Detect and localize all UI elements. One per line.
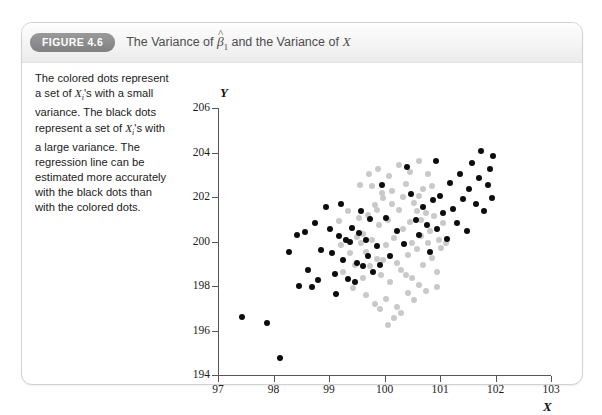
data-point-gray	[391, 235, 397, 241]
data-point-gray	[369, 183, 375, 189]
data-point-gray	[411, 200, 417, 206]
caption-line-2-b: 's with a small	[84, 87, 153, 99]
x-tick-label: 99	[314, 383, 344, 395]
data-point-gray	[357, 182, 363, 188]
data-point-black	[420, 204, 426, 210]
data-point-gray	[440, 220, 446, 226]
data-point-black	[485, 182, 491, 188]
x-tick-mark	[385, 376, 386, 382]
data-point-black	[464, 228, 470, 234]
x-tick-mark	[218, 376, 219, 382]
data-point-gray	[409, 240, 415, 246]
data-point-gray	[407, 219, 413, 225]
y-tick-mark	[212, 286, 218, 287]
data-point-gray	[398, 310, 404, 316]
data-point-black	[481, 208, 487, 214]
caption-line-4-xvar: X	[125, 122, 132, 134]
data-point-black	[413, 217, 419, 223]
data-point-black	[352, 279, 358, 285]
data-point-black	[433, 158, 439, 164]
data-point-gray	[403, 181, 409, 187]
data-point-black	[487, 166, 493, 172]
data-point-gray	[350, 285, 356, 291]
data-point-black	[358, 208, 364, 214]
y-tick-mark	[212, 108, 218, 109]
data-point-gray	[360, 275, 366, 281]
caption-line-9: with the colored dots.	[35, 201, 141, 213]
data-point-gray	[429, 255, 435, 261]
data-point-gray	[372, 301, 378, 307]
data-point-gray	[365, 212, 371, 218]
data-point-gray	[418, 233, 424, 239]
data-point-gray	[374, 256, 380, 262]
data-point-gray	[431, 213, 437, 219]
x-tick-label: 97	[203, 383, 233, 395]
data-point-black	[302, 229, 308, 235]
caption-line-2-a: a set of	[35, 87, 75, 99]
data-point-black	[360, 263, 366, 269]
data-point-black	[329, 250, 335, 256]
y-axis-line	[218, 108, 219, 375]
caption-line-7: estimated more accurately	[35, 171, 166, 183]
data-point-gray	[396, 207, 402, 213]
x-tick-mark	[274, 376, 275, 382]
data-point-black	[370, 269, 376, 275]
data-point-gray	[409, 275, 415, 281]
data-point-gray	[434, 269, 440, 275]
data-point-gray	[375, 166, 381, 172]
data-point-black	[277, 355, 283, 361]
data-point-black	[401, 241, 407, 247]
data-point-gray	[407, 169, 413, 175]
data-point-black	[354, 260, 360, 266]
caption-line-4-b: 's with	[134, 122, 165, 134]
data-point-gray	[374, 207, 380, 213]
data-point-gray	[377, 306, 383, 312]
data-point-black	[377, 262, 383, 268]
data-point-gray	[427, 228, 433, 234]
data-point-black	[404, 164, 410, 170]
data-point-gray	[389, 188, 395, 194]
caption-line-4-a: represent a set of	[35, 122, 125, 134]
figure-caption: The colored dots represent a set of Xi's…	[35, 71, 187, 215]
data-point-gray	[405, 290, 411, 296]
data-point-gray	[345, 208, 351, 214]
data-point-gray	[411, 297, 417, 303]
scatter-plot: Y X 194196198200202204206 97989910010110…	[196, 63, 576, 381]
data-point-gray	[338, 242, 344, 248]
data-point-black	[473, 201, 479, 207]
data-point-gray	[403, 272, 409, 278]
figure-card: FIGURE 4.6 The Variance of ^β1 and the V…	[21, 22, 583, 385]
data-point-gray	[416, 158, 422, 164]
y-tick-mark	[212, 153, 218, 154]
data-point-black	[365, 253, 371, 259]
data-point-black	[332, 271, 338, 277]
data-point-gray	[383, 242, 389, 248]
caption-line-6: regression line can be	[35, 156, 144, 168]
data-point-black	[309, 284, 315, 290]
data-point-gray	[425, 171, 431, 177]
data-point-gray	[376, 222, 382, 228]
data-point-gray	[400, 226, 406, 232]
data-point-gray	[387, 279, 393, 285]
data-point-gray	[416, 193, 422, 199]
data-point-gray	[405, 252, 411, 258]
data-point-gray	[425, 240, 431, 246]
data-point-black	[374, 243, 380, 249]
y-tick-label: 194	[184, 368, 210, 380]
x-tick-mark	[551, 376, 552, 382]
data-point-black	[367, 216, 373, 222]
x-axis-label: X	[543, 399, 552, 415]
data-point-black	[264, 320, 270, 326]
data-point-black	[460, 196, 466, 202]
figure-title: The Variance of ^β1 and the Variance of …	[126, 34, 350, 52]
caption-line-3: variance. The black dots	[35, 106, 156, 118]
data-point-black	[476, 175, 482, 181]
data-point-black	[349, 225, 355, 231]
data-point-black	[408, 191, 414, 197]
data-point-gray	[354, 234, 360, 240]
data-point-black	[450, 206, 456, 212]
data-point-black	[490, 153, 496, 159]
data-point-black	[340, 257, 346, 263]
data-point-black	[318, 247, 324, 253]
data-point-gray	[416, 282, 422, 288]
